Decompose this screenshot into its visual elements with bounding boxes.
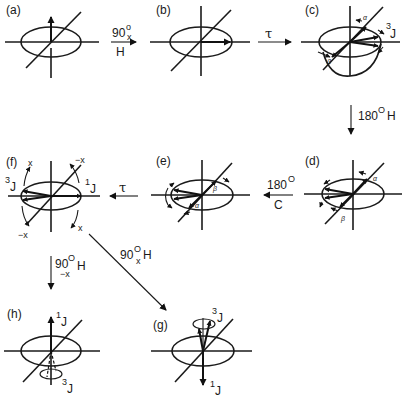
beta-precession-arrow: [223, 178, 229, 182]
panel-c: (c) α β 3 J: [301, 3, 400, 76]
pulse-nucleus: H: [116, 45, 125, 59]
transition-d-to-e: 180 O C: [264, 174, 295, 212]
coupling-label: J: [390, 27, 396, 41]
bottom-coupling-label: J: [67, 382, 73, 396]
transition-a-to-b: 90 o x H: [111, 22, 136, 59]
rotation-arrow-minus-x-top: [70, 164, 79, 183]
alpha-label: α: [363, 14, 368, 21]
top-coupling-label: J: [217, 311, 223, 325]
panel-g: (g) 3 J 1 J: [151, 306, 252, 397]
degree-symbol: O: [134, 244, 141, 254]
alpha-vector: [353, 179, 367, 194]
pulse-angle: 180: [267, 178, 287, 192]
beta-precession-arrow: [331, 208, 338, 211]
transition-b-to-c: τ: [258, 26, 291, 42]
panel-a-label: (a): [6, 3, 21, 17]
panel-a: (a): [5, 3, 99, 78]
panel-f: (f) x −x −x x 3 J 1 J: [5, 155, 100, 240]
precession-cone-ellipse: [193, 319, 215, 329]
pulse-nucleus: H: [77, 259, 86, 273]
pulse-nucleus: H: [387, 109, 396, 123]
x-phase-label-top: x: [28, 158, 33, 168]
panel-g-label: (g): [153, 318, 168, 332]
pulse-angle: 90: [120, 248, 134, 262]
precession-arrow-upper: [378, 30, 384, 34]
alpha-precession-arrow: [359, 172, 366, 174]
precession-arrow-upper: [170, 183, 174, 186]
pulse-axis: −x: [60, 269, 70, 279]
precession-arrow-lower: [168, 205, 172, 208]
panel-h: (h) 1 J 3 J: [4, 307, 100, 396]
pulse-axis: x: [136, 256, 141, 266]
beta-vector: [332, 42, 350, 57]
minus-x-label-bottom: −x: [18, 230, 28, 240]
rotation-arrow-x-top: [24, 167, 30, 186]
panel-e: (e) β α: [151, 154, 250, 230]
panel-e-label: (e): [156, 154, 171, 168]
degree-symbol: O: [378, 105, 385, 115]
panel-c-label: (c): [305, 3, 319, 17]
transition-f-to-h: 90 O −x H: [51, 253, 86, 289]
pulse-axis: x: [127, 32, 132, 42]
beta-label: β: [326, 58, 331, 66]
top-coupling-label: J: [61, 315, 67, 329]
panel-b-label: (b): [156, 3, 171, 17]
panel-d: (d) α β: [304, 154, 402, 230]
left-coupling-label: J: [10, 180, 16, 194]
precession-arrow-upper: [324, 180, 330, 184]
pulse-nucleus: H: [143, 248, 152, 262]
x-label-bottom: x: [78, 223, 83, 233]
beta-label: β: [340, 215, 345, 223]
rotation-arrow-x-bottom: [71, 210, 78, 228]
beta-label: β: [212, 185, 217, 193]
refocus-arc: [166, 188, 169, 205]
tau-symbol: τ: [119, 180, 126, 195]
panel-h-label: (h): [7, 307, 22, 321]
pulse-sequence-diagram: (a) 90 o x H (b) τ (c): [0, 0, 403, 397]
transition-c-to-d: 180 O H: [351, 105, 396, 134]
degree-symbol: O: [288, 174, 295, 184]
transition-e-to-f: τ: [110, 180, 138, 196]
tau-symbol: τ: [265, 26, 272, 41]
panel-b: (b): [150, 3, 250, 76]
x-axis: [26, 12, 81, 68]
transition-f-to-g: 90 O x H: [89, 234, 166, 310]
degree-symbol: O: [68, 253, 75, 263]
minus-x-label-top: −x: [75, 155, 85, 165]
panel-f-label: (f): [6, 155, 17, 169]
pulse-angle: 180: [358, 109, 378, 123]
degree-symbol: o: [126, 22, 131, 32]
alpha-label: α: [195, 202, 200, 209]
pulse-angle: 90: [112, 26, 126, 40]
vector-3j-left: [199, 329, 203, 351]
arrow-f-to-g: [89, 234, 166, 310]
precession-arrow-lower: [320, 202, 322, 207]
alpha-precession-arrow: [356, 20, 362, 21]
panel-d-label: (d): [305, 154, 320, 168]
bottom-coupling-label: J: [215, 384, 221, 397]
right-coupling-label: J: [90, 182, 96, 196]
pulse-nucleus: C: [274, 198, 283, 212]
alpha-label: α: [373, 175, 378, 182]
